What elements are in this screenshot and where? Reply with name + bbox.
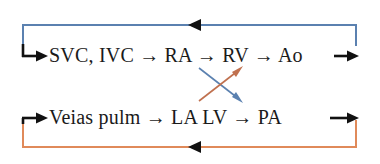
cross-arrow-ra-to-lv-head bbox=[232, 92, 243, 103]
pulmonary-entry-arrowhead bbox=[36, 113, 48, 124]
cardiac-circulation-diagram: SVC, IVC → RA → RV → Ao Veias pulm → LA … bbox=[0, 0, 380, 164]
flow-connectors-svg bbox=[0, 0, 380, 164]
systemic-return-loop bbox=[22, 19, 357, 46]
cross-arrow-la-to-rv-head bbox=[232, 66, 243, 77]
systemic-exit-connector bbox=[334, 51, 359, 62]
systemic-row-label: SVC, IVC → RA → RV → Ao bbox=[49, 45, 303, 65]
pulmonary-exit-connector bbox=[330, 113, 359, 124]
systemic-entry-connector bbox=[22, 44, 48, 62]
pulmonary-row-label: Veias pulm → LA LV → PA bbox=[49, 107, 282, 127]
systemic-loop-arrowhead-left bbox=[188, 19, 201, 31]
pulmonary-exit-arrowhead bbox=[347, 113, 359, 124]
systemic-entry-arrowhead bbox=[36, 51, 48, 62]
pulmonary-entry-connector bbox=[22, 113, 48, 125]
systemic-exit-arrowhead bbox=[347, 51, 359, 62]
pulmonary-loop-arrowhead-left bbox=[188, 141, 201, 153]
